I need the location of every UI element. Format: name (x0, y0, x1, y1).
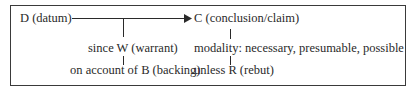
arrowhead-icon (184, 14, 192, 23)
datum-to-claim-arrow (72, 18, 186, 19)
modality-node: modality: necessary, presumable, possibl… (194, 41, 404, 55)
datum-node: D (datum) (20, 11, 72, 25)
modality-connector (230, 29, 231, 39)
rebuttal-node: unless R (rebut) (194, 63, 274, 77)
warrant-connector (123, 19, 124, 37)
warrant-node: since W (warrant) (88, 41, 178, 55)
backing-node: on account of B (backing) (70, 63, 201, 77)
claim-node: C (conclusion/claim) (194, 11, 299, 25)
